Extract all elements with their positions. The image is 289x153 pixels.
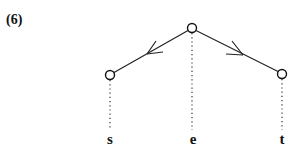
node-root-icon	[188, 24, 197, 33]
leaf-label-t: t	[280, 131, 285, 147]
tree-diagram: s e t	[0, 0, 289, 153]
edge-root-right	[196, 31, 278, 72]
leaf-label-s: s	[107, 131, 113, 147]
node-left-icon	[106, 71, 115, 80]
node-right-icon	[278, 70, 287, 79]
diagram: (6) s e t	[0, 0, 289, 153]
leaf-label-e: e	[190, 131, 197, 147]
edge-root-left	[114, 31, 188, 73]
